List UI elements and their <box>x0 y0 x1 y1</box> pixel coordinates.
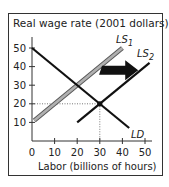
label-ls2: LS2 <box>137 48 154 62</box>
label-ld: LD <box>131 129 145 140</box>
x-tick-label: 50 <box>139 147 152 158</box>
equilibrium-point <box>97 101 102 106</box>
label-main: LS <box>137 48 150 59</box>
x-axis-label: Labor (billions of hours) <box>38 161 157 172</box>
label-ls1: LS1 <box>116 34 133 48</box>
x-tick-label: 30 <box>93 147 106 158</box>
y-tick-label: 30 <box>13 80 26 91</box>
label-main: LS <box>116 34 129 45</box>
y-tick-label: 40 <box>13 61 26 72</box>
curves <box>32 48 150 128</box>
axes <box>32 37 152 141</box>
y-tick-label: 10 <box>13 117 26 128</box>
y-tick-label: 50 <box>13 43 26 54</box>
x-tick-label: 0 <box>29 147 35 158</box>
curve-ld <box>32 48 129 128</box>
x-tick-label: 20 <box>71 147 84 158</box>
x-tick-label: 40 <box>116 147 129 158</box>
chart: Real wage rate (2001 dollars) 0102030405… <box>0 0 169 187</box>
label-subscript: 1 <box>128 39 133 48</box>
equilibrium-guides <box>32 104 100 141</box>
label-main: LD <box>131 129 145 140</box>
x-tick-label: 10 <box>48 147 61 158</box>
chart-title: Real wage rate (2001 dollars) <box>13 17 169 29</box>
curve-ls1 <box>34 48 122 121</box>
y-tick-label: 20 <box>13 98 26 109</box>
label-subscript: 2 <box>149 53 154 62</box>
